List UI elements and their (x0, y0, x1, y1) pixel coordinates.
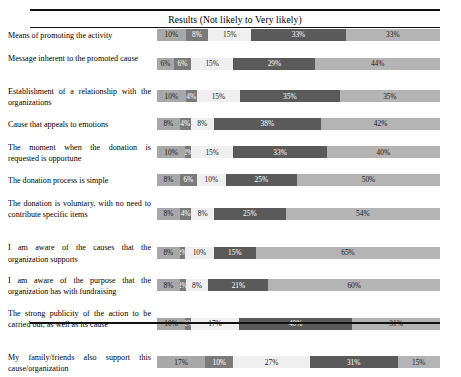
bar-segment-very-likely: 31% (352, 318, 440, 330)
chart-row: I am aware of the purpose that the organ… (0, 273, 461, 306)
bar-segment-moderately-likely: 10% (197, 174, 226, 186)
row-category-label: The donation process is simple (8, 175, 151, 186)
chart-rows-container: Means of promoting the activity10%8%15%3… (0, 28, 461, 322)
chart-row: Message inherent to the promoted cause6%… (0, 51, 461, 84)
bar-segment-not-likely: 17% (157, 356, 205, 368)
bar-segment-slightly-likely: 8% (186, 29, 209, 41)
bar-segment-very-likely: 35% (340, 90, 440, 102)
stacked-bar: 10%8%15%33%33% (157, 29, 440, 41)
bar-segment-likely: 33% (233, 146, 326, 158)
row-category-label: Message inherent to the promoted cause (8, 53, 151, 64)
chart-row: I am aware of the causes that the organi… (0, 240, 461, 273)
bar-segment-not-likely: 8% (157, 279, 180, 291)
chart-row: The donation is voluntary, with no need … (0, 196, 461, 240)
bar-segment-very-likely: 60% (268, 279, 440, 291)
bar-segment-very-likely: 50% (297, 174, 440, 186)
bar-segment-likely: 31% (310, 356, 398, 368)
bar-segment-very-likely: 44% (315, 58, 440, 70)
bar-segment-moderately-likely: 15% (191, 146, 233, 158)
chart-row: My family/friends also support this caus… (0, 350, 461, 377)
row-category-label: Establishment of a relationship with the… (8, 86, 151, 109)
bar-segment-not-likely: 8% (157, 208, 180, 220)
row-category-label: I am aware of the causes that the organi… (8, 242, 151, 265)
bar-segment-slightly-likely: 6% (174, 58, 191, 70)
chart-row: Means of promoting the activity10%8%15%3… (0, 28, 461, 51)
bar-segment-moderately-likely: 17% (191, 318, 239, 330)
stacked-bar: 17%10%27%31%15% (157, 356, 440, 368)
table-bottom-rule (30, 322, 440, 324)
stacked-bar: 8%2%8%21%60% (157, 279, 440, 291)
bar-segment-not-likely: 8% (157, 174, 180, 186)
chart-row: The donation process is simple8%6%10%25%… (0, 173, 461, 196)
bar-segment-slightly-likely: 4% (186, 90, 197, 102)
bar-segment-not-likely: 8% (157, 118, 180, 130)
chart-row: The strong publicity of the action to be… (0, 306, 461, 350)
stacked-bar: 10%2%15%33%40% (157, 146, 440, 158)
row-category-label: The moment when the donation is requeste… (8, 142, 151, 165)
row-category-label: Means of promoting the activity (8, 30, 151, 41)
bar-segment-likely: 38% (214, 118, 322, 130)
bar-segment-slightly-likely: 4% (180, 208, 191, 220)
bar-segment-likely: 15% (214, 247, 256, 259)
table-header-row: Results (Not likely to Very likely) (30, 11, 440, 27)
bar-segment-very-likely: 40% (327, 146, 440, 158)
bar-segment-very-likely: 15% (398, 356, 440, 368)
chart-row: The moment when the donation is requeste… (0, 140, 461, 173)
bar-segment-likely: 21% (208, 279, 268, 291)
chart-row: Cause that appeals to emotions8%4%8%38%4… (0, 117, 461, 140)
bar-segment-moderately-likely: 27% (233, 356, 309, 368)
row-category-label: I am aware of the purpose that the organ… (8, 275, 151, 298)
stacked-bar: 10%2%17%40%31% (157, 318, 440, 330)
bar-segment-moderately-likely: 8% (191, 118, 214, 130)
bar-segment-likely: 25% (214, 208, 285, 220)
stacked-bar: 8%6%10%25%50% (157, 174, 440, 186)
stacked-bar: 6%6%15%29%44% (157, 58, 440, 70)
row-category-label: Cause that appeals to emotions (8, 119, 151, 130)
bar-segment-slightly-likely: 6% (180, 174, 197, 186)
stacked-bar: 8%2%10%15%65% (157, 247, 440, 259)
bar-segment-moderately-likely: 8% (191, 208, 214, 220)
bar-segment-likely: 35% (240, 90, 340, 102)
stacked-bar: 10%4%15%35%35% (157, 90, 440, 102)
bar-segment-slightly-likely: 4% (180, 118, 191, 130)
bar-segment-slightly-likely: 10% (205, 356, 233, 368)
bar-segment-very-likely: 54% (286, 208, 440, 220)
bar-segment-moderately-likely: 8% (186, 279, 209, 291)
bar-segment-very-likely: 65% (256, 247, 440, 259)
bar-segment-not-likely: 10% (157, 29, 186, 41)
bar-segment-very-likely: 33% (346, 29, 440, 41)
bar-segment-not-likely: 6% (157, 58, 174, 70)
bar-segment-not-likely: 8% (157, 247, 180, 259)
bar-segment-very-likely: 42% (321, 118, 440, 130)
row-category-label: The donation is voluntary, with no need … (8, 198, 151, 221)
stacked-bar: 8%4%8%25%54% (157, 208, 440, 220)
bar-segment-moderately-likely: 15% (208, 29, 251, 41)
bar-segment-moderately-likely: 15% (191, 58, 233, 70)
bar-segment-moderately-likely: 10% (185, 247, 213, 259)
chart-row: Establishment of a relationship with the… (0, 84, 461, 117)
results-column-header: Results (Not likely to Very likely) (168, 14, 302, 25)
bar-segment-likely: 40% (239, 318, 352, 330)
bar-segment-not-likely: 10% (157, 146, 185, 158)
bar-segment-not-likely: 10% (157, 318, 185, 330)
bar-segment-likely: 29% (233, 58, 315, 70)
row-category-label: My family/friends also support this caus… (8, 352, 151, 375)
stacked-bar: 8%4%8%38%42% (157, 118, 440, 130)
bar-segment-moderately-likely: 15% (197, 90, 240, 102)
row-category-label: The strong publicity of the action to be… (8, 308, 151, 331)
bar-segment-likely: 25% (226, 174, 297, 186)
bar-segment-not-likely: 10% (157, 90, 186, 102)
bar-segment-likely: 33% (251, 29, 345, 41)
